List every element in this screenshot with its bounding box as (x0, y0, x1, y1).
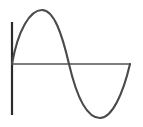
sine-wave-figure (0, 0, 143, 127)
plot-canvas (0, 0, 143, 127)
